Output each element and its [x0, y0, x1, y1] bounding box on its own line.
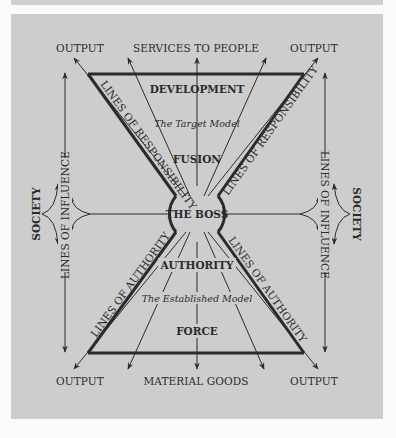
material-goods-label: MATERIAL GOODS: [144, 375, 249, 387]
established-model-label: The Established Model: [142, 293, 252, 304]
right-authority-label: LINES OF AUTHORITY: [226, 234, 310, 345]
authority-label: AUTHORITY: [159, 259, 234, 271]
bottom-output-right-label: OUTPUT: [290, 375, 338, 387]
fusion-label: FUSION: [173, 153, 221, 165]
target-model-label: The Target Model: [154, 118, 240, 129]
development-label: DEVELOPMENT: [150, 83, 245, 95]
left-authority-label: LINES OF AUTHORITY: [88, 229, 173, 339]
force-label: FORCE: [176, 325, 218, 337]
left-society-label: SOCIETY: [30, 187, 42, 241]
organization-diagram: OUTPUT SERVICES TO PEOPLE OUTPUT OUTPUT …: [0, 0, 396, 438]
left-responsibility-label: LINES OF RESPONSIBILITY: [98, 78, 200, 212]
the-boss-label: THE BOSS: [166, 208, 229, 220]
right-society-label: SOCIETY: [351, 187, 363, 241]
right-influence-label: LINES OF INFLUENCE: [319, 151, 331, 279]
left-influence-label: LINES OF INFLUENCE: [59, 151, 71, 279]
top-output-right-label: OUTPUT: [290, 42, 338, 54]
top-output-left-label: OUTPUT: [56, 42, 104, 54]
bottom-output-left-label: OUTPUT: [56, 375, 104, 387]
services-to-people-label: SERVICES TO PEOPLE: [133, 42, 259, 54]
